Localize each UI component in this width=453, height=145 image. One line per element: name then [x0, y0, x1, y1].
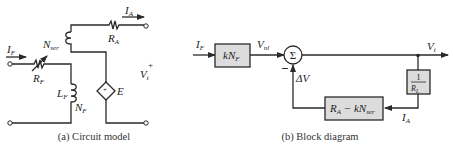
circuit-model: IA RA Nser + E Vt + IF RF LF NF (a) Circ… [6, 4, 153, 143]
terminal-field-top [8, 62, 12, 66]
rf-label: RF [32, 72, 45, 86]
top-wire [71, 21, 144, 32]
e-label: E [116, 85, 124, 97]
vt-label: Vt [140, 68, 150, 82]
bd-vt-label: Vt [427, 40, 437, 54]
terminal-field-bottom [8, 121, 12, 125]
minus-sign: − [281, 61, 288, 76]
caption-block-diagram: (b) Block diagram [282, 131, 359, 143]
terminal-bottom-right [144, 121, 148, 125]
right-bottom-wire [106, 100, 144, 123]
bd-if-label: IF [195, 38, 205, 52]
source-plus: + [103, 86, 107, 94]
ra-label: RA [107, 32, 120, 46]
ia-feedback-arrow [385, 94, 418, 108]
block-diagram: IF kNF Vnl Σ Vt 1 RL IA RA − kNser − ΔV … [193, 38, 448, 143]
vt-plus: + [148, 60, 153, 70]
vnl-label: Vnl [257, 38, 269, 52]
bd-ia-label: IA [401, 111, 411, 125]
lf-label: LF [56, 87, 68, 101]
sigma-symbol: Σ [290, 49, 296, 61]
load-num: 1 [417, 73, 421, 82]
if-label: IF [6, 43, 16, 57]
caption-circuit-model: (a) Circuit model [58, 131, 130, 143]
ia-label: IA [124, 4, 134, 18]
lf-coil-icon [12, 84, 76, 123]
delta-v-label: ΔV [295, 72, 310, 84]
diagram-canvas: IA RA Nser + E Vt + IF RF LF NF (a) Circ… [0, 0, 453, 145]
terminal-top-right [144, 24, 148, 28]
nser-coil-icon [66, 32, 106, 82]
nf-label: NF [74, 101, 87, 115]
nser-label: Nser [42, 38, 59, 52]
